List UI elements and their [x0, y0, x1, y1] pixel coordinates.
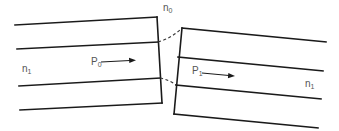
right-fiber-outer-bottom: [174, 114, 318, 128]
fiber-splice-diagram: n0 n1 n1 P0 P1: [0, 0, 339, 131]
left-fiber-core-top: [17, 42, 158, 49]
right-power-arrow-icon: [202, 73, 235, 78]
left-power-arrow-icon: [101, 58, 136, 63]
left-fiber-outer-top: [15, 17, 157, 25]
gap-connector-top: [158, 28, 182, 42]
left-power-label: P0: [91, 56, 102, 68]
right-fiber-end-face: [174, 28, 182, 114]
left-fiber-end-face: [157, 17, 162, 103]
right-fiber-core-bottom: [176, 85, 321, 99]
right-fiber: [174, 28, 326, 128]
right-fiber-outer-top: [182, 28, 326, 42]
right-index-label: n1: [305, 78, 315, 90]
left-fiber-outer-bottom: [20, 103, 162, 110]
gap-index-label: n0: [163, 2, 173, 14]
left-fiber-core-bottom: [19, 78, 160, 86]
left-index-label: n1: [22, 63, 32, 75]
right-fiber-core-top: [178, 57, 323, 71]
gap-connector-bottom: [160, 78, 176, 85]
right-power-label: P1: [192, 65, 203, 77]
left-fiber: [15, 17, 162, 110]
